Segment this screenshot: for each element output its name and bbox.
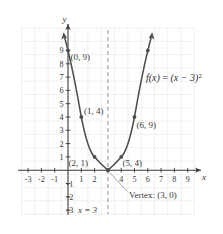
point-label-4-1: (5, 4) <box>123 158 143 168</box>
y-tick-label: 4 <box>59 113 63 122</box>
vertex-label: Vertex: (3, 0) <box>129 190 177 200</box>
data-point-1-4 <box>79 115 83 119</box>
y-tick-label: 5 <box>59 100 63 109</box>
function-label-body: (x − 3) <box>171 72 200 84</box>
function-label-equals: = <box>160 72 171 83</box>
y-tick-label: -1 <box>67 180 74 189</box>
x-axis-label: x <box>201 172 206 182</box>
y-tick-label: -3 <box>67 206 74 215</box>
function-label: f(x) = (x − 3)2 <box>146 72 202 85</box>
x-tick-label: 1 <box>79 175 83 184</box>
x-tick-label: 5 <box>132 175 136 184</box>
function-label-arg: (x) <box>149 72 161 84</box>
data-point-5-4 <box>133 115 137 119</box>
point-label-1-4: (1, 4) <box>84 106 104 116</box>
axis-of-symmetry-label-group: x = 3 <box>77 205 98 215</box>
parabola-plot: y x -3 -2 -1 1 2 4 5 6 7 <box>0 0 223 234</box>
x-tick-label: 9 <box>186 175 190 184</box>
function-label-exponent: 2 <box>198 72 201 79</box>
y-axis-label: y <box>62 14 67 24</box>
data-point-2-1 <box>93 155 97 159</box>
data-point-0-9 <box>66 49 70 53</box>
x-tick-label: 8 <box>172 175 176 184</box>
x-tick-label: -2 <box>38 175 45 184</box>
x-tick-label: 4 <box>119 175 123 184</box>
graph-figure: y x -3 -2 -1 1 2 4 5 6 7 <box>0 0 223 234</box>
x-tick-label: -3 <box>25 175 32 184</box>
point-label-0-9: (0, 9) <box>71 52 91 62</box>
x-tick-label: -1 <box>51 175 58 184</box>
y-tick-label: 6 <box>59 86 63 95</box>
point-label-2-1: (2, 1) <box>69 158 89 168</box>
x-tick-labels: -3 -2 -1 1 2 4 5 6 7 8 9 <box>25 175 190 184</box>
svg-text:f(x) = (x − 3)2: f(x) = (x − 3)2 <box>146 72 202 85</box>
data-point-vertex-3-0 <box>106 168 110 172</box>
y-tick-label: 3 <box>59 126 63 135</box>
axis-of-symmetry-label: x = 3 <box>77 205 98 215</box>
y-tick-label: 1 <box>59 153 63 162</box>
x-tick-label: 6 <box>146 175 150 184</box>
point-label-5-4: (6, 9) <box>137 120 157 130</box>
axis-of-symmetry-label-text: x = 3 <box>77 205 98 215</box>
y-tick-label: 9 <box>59 46 63 55</box>
x-tick-label: 7 <box>159 175 163 184</box>
data-point-6-9 <box>146 49 150 53</box>
y-tick-label: 8 <box>59 60 63 69</box>
y-tick-label: 2 <box>59 140 63 149</box>
y-tick-label: -2 <box>67 193 74 202</box>
x-tick-label: 2 <box>93 175 97 184</box>
y-tick-label: 7 <box>59 73 63 82</box>
